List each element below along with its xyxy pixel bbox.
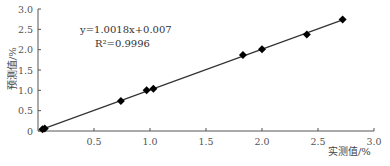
data-point: [149, 85, 157, 93]
y-axis-title: 预测值/%: [6, 47, 18, 90]
y-tick-label: 2.0: [18, 44, 33, 55]
y-tick-label: 1.5: [18, 65, 33, 76]
x-axis-title: 实测值/%: [328, 145, 371, 157]
y-tick-label: 2.5: [18, 24, 33, 35]
equation-label: y=1.0018x+0.007: [79, 24, 172, 35]
data-point: [117, 97, 125, 105]
x-tick-label: 2.0: [254, 136, 269, 147]
x-tick-label: 1.0: [142, 136, 157, 147]
fit-line: [42, 20, 342, 129]
r-squared-label: R²=0.9996: [95, 38, 150, 49]
x-tick-label: 0.5: [86, 136, 101, 147]
y-tick-label: 3.0: [18, 4, 33, 15]
y-tick-label: 0: [27, 126, 33, 137]
data-point: [339, 16, 347, 24]
y-tick-label: 0.5: [18, 105, 33, 116]
x-tick-label: 2.5: [310, 136, 325, 147]
y-tick-label: 1.0: [18, 85, 33, 96]
scatter-chart: 0.51.01.52.02.53.000.51.01.52.02.53.0 y=…: [0, 0, 390, 166]
data-point: [143, 86, 151, 94]
x-tick-label: 1.5: [198, 136, 213, 147]
data-point: [258, 45, 266, 53]
